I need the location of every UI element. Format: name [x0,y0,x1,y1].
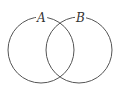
set-b-label: B [75,12,86,24]
set-b-circle [46,17,112,83]
set-a-circle [8,17,74,83]
set-a-label: A [36,12,47,24]
venn-diagram [0,0,117,88]
